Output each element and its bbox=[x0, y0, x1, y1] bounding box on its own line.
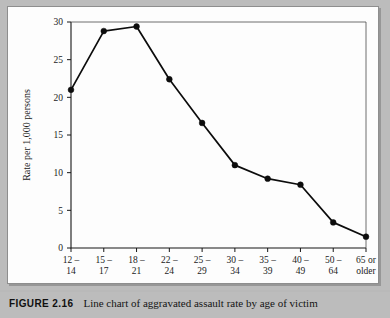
plot-area: 051015202530 12 –1415 –1718 –2122 –2425 … bbox=[8, 7, 380, 285]
series-point bbox=[363, 234, 369, 240]
x-tick-label: 15 –17 bbox=[95, 255, 112, 276]
series-polyline bbox=[71, 27, 366, 237]
y-axis-tick-labels: 051015202530 bbox=[54, 17, 64, 253]
chart-panel: 051015202530 12 –1415 –1718 –2122 –2425 … bbox=[7, 6, 379, 284]
x-tick-label: 30 –34 bbox=[227, 255, 244, 276]
axis-lines bbox=[71, 22, 366, 248]
x-axis-ticks bbox=[71, 248, 366, 252]
series-point bbox=[166, 76, 172, 82]
figure-caption-text: Line chart of aggravated assault rate by… bbox=[83, 297, 317, 309]
y-tick-label: 30 bbox=[54, 17, 64, 27]
series-point bbox=[298, 182, 304, 188]
x-tick-label: 65 orolder bbox=[356, 255, 377, 276]
x-tick-label: 25 –29 bbox=[194, 255, 211, 276]
x-axis-tick-labels: 12 –1415 –1718 –2122 –2425 –2930 –3435 –… bbox=[63, 255, 377, 276]
x-tick-label: 35 –39 bbox=[259, 255, 276, 276]
series-point bbox=[330, 219, 336, 225]
y-tick-label: 20 bbox=[54, 93, 64, 103]
series-point bbox=[134, 24, 140, 30]
x-tick-label: 40 –49 bbox=[292, 255, 309, 276]
figure-caption: FIGURE 2.16Line chart of aggravated assa… bbox=[9, 297, 387, 309]
y-tick-label: 25 bbox=[54, 55, 64, 65]
series-point bbox=[101, 28, 107, 34]
plot-frame bbox=[71, 22, 366, 248]
x-tick-label: 50 –64 bbox=[325, 255, 342, 276]
series-point bbox=[68, 87, 74, 93]
figure-number-label: FIGURE 2.16 bbox=[9, 298, 73, 309]
y-tick-label: 10 bbox=[54, 168, 64, 178]
y-tick-label: 0 bbox=[58, 243, 63, 253]
y-axis-title: Rate per 1,000 persons bbox=[21, 89, 32, 181]
plot-frame-edges bbox=[71, 22, 366, 248]
series-point bbox=[232, 162, 238, 168]
line-chart: 051015202530 12 –1415 –1718 –2122 –2425 … bbox=[8, 7, 380, 285]
x-tick-label: 18 –21 bbox=[128, 255, 145, 276]
x-tick-label: 22 –24 bbox=[161, 255, 178, 276]
y-tick-label: 5 bbox=[58, 206, 63, 216]
y-tick-label: 15 bbox=[54, 130, 64, 140]
series-point bbox=[199, 120, 205, 126]
x-tick-label: 12 –14 bbox=[63, 255, 80, 276]
series-point bbox=[265, 176, 271, 182]
figure-container: 051015202530 12 –1415 –1718 –2122 –2425 … bbox=[0, 0, 390, 318]
x-axis-title: Age of victim bbox=[191, 284, 247, 285]
y-axis-ticks bbox=[67, 22, 71, 248]
data-series-aggravated-assault-rate bbox=[68, 24, 369, 240]
